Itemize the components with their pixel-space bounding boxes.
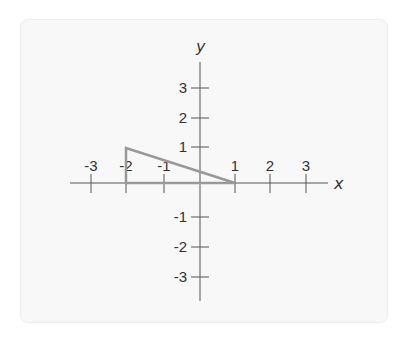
y-tick-label: 1	[179, 138, 187, 155]
y-tick-label: -1	[174, 208, 187, 225]
x-ticks: -3-2-1123	[84, 157, 310, 193]
x-tick-label: 3	[302, 157, 310, 174]
x-tick-label: -3	[84, 157, 97, 174]
coordinate-plane: -3-2-1123 321-1-2-3 x y	[0, 0, 408, 342]
y-tick-label: -2	[174, 238, 187, 255]
y-tick-label: 2	[179, 109, 187, 126]
x-tick-label: 2	[266, 157, 274, 174]
y-tick-label: 3	[179, 79, 187, 96]
y-tick-label: -3	[174, 268, 187, 285]
y-axis-label: y	[195, 37, 206, 56]
x-tick-label: 1	[231, 157, 239, 174]
x-axis-label: x	[333, 174, 344, 193]
